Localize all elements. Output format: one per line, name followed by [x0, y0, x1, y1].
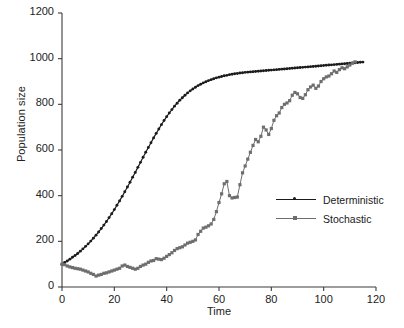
legend-swatch-deterministic: [276, 194, 316, 206]
x-axis-label: Time: [62, 305, 376, 317]
legend-marker-stochastic: [293, 216, 297, 220]
y-axis-tick-label: 400: [14, 188, 54, 200]
x-axis-tick-label: 100: [304, 293, 344, 305]
x-axis-tick-label: 0: [42, 293, 82, 305]
y-axis-label: Population size: [15, 69, 27, 179]
y-axis-tick-label: 0: [14, 279, 54, 291]
series-stochastic: [60, 60, 356, 277]
y-axis-tick-label: 600: [14, 142, 54, 154]
y-axis-tick-label: 200: [14, 233, 54, 245]
legend-swatch-stochastic: [276, 213, 316, 225]
legend-item-deterministic: Deterministic: [276, 190, 384, 209]
x-axis-tick-label: 40: [147, 293, 187, 305]
legend-line-deterministic: [276, 199, 316, 200]
y-axis-tick-label: 800: [14, 96, 54, 108]
x-axis-tick-label: 20: [94, 293, 134, 305]
x-axis-tick-label: 120: [356, 293, 396, 305]
legend-label-deterministic: Deterministic: [323, 194, 384, 206]
y-axis-tick-label: 1200: [14, 5, 54, 17]
chart-legend: Deterministic Stochastic: [276, 190, 384, 228]
legend-item-stochastic: Stochastic: [276, 209, 384, 228]
chart-plot-area: [0, 0, 404, 328]
x-axis-tick-label: 60: [199, 293, 239, 305]
y-axis-tick-label: 1000: [14, 51, 54, 63]
legend-label-stochastic: Stochastic: [323, 213, 371, 225]
chart-figure: Population size Time 0200400600800100012…: [0, 0, 404, 328]
x-axis-tick-label: 80: [251, 293, 291, 305]
series-deterministic: [61, 61, 365, 266]
